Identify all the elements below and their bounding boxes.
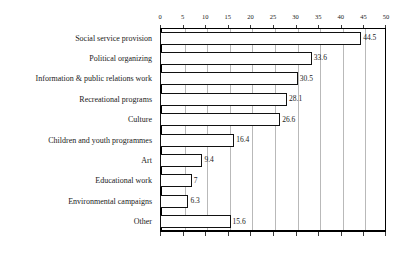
x-tick-mark-bottom xyxy=(205,232,206,236)
bars-layer: 44.533.630.528.126.616.49.476.315.6 xyxy=(160,28,386,232)
bar-row: 6.3 xyxy=(160,191,386,211)
x-tick-label: 40 xyxy=(338,12,345,21)
x-tick-mark-bottom xyxy=(385,232,386,236)
category-label: Art xyxy=(0,150,156,170)
bar-value-label: 28.1 xyxy=(287,92,302,106)
category-label: Children and youth programmes xyxy=(0,130,156,150)
bar xyxy=(160,134,234,147)
x-tick-label: 20 xyxy=(247,12,254,21)
x-tick-mark-bottom xyxy=(296,232,297,236)
bar-row: 33.6 xyxy=(160,48,386,68)
bar-value-label: 9.4 xyxy=(202,153,213,167)
bar-row: 15.6 xyxy=(160,212,386,232)
bar-value-label: 6.3 xyxy=(188,194,199,208)
bar xyxy=(160,72,298,85)
x-tick-mark-bottom xyxy=(250,232,251,236)
category-label: Environmental campaigns xyxy=(0,191,156,211)
bar-value-label: 16.4 xyxy=(234,133,249,147)
category-label: Other xyxy=(0,212,156,232)
bar-value-label: 30.5 xyxy=(298,72,313,86)
x-tick-label: 25 xyxy=(270,12,277,21)
bar-value-label: 7 xyxy=(192,174,198,188)
bar-value-label: 26.6 xyxy=(280,113,295,127)
bar xyxy=(160,52,312,65)
bar xyxy=(160,32,361,45)
bar-chart: 05101520253035404550 44.533.630.528.126.… xyxy=(0,0,402,254)
bar-value-label: 15.6 xyxy=(231,215,246,229)
category-label: Recreational programs xyxy=(0,89,156,109)
category-label: Information & public relations work xyxy=(0,69,156,89)
x-tick-label: 0 xyxy=(158,12,161,21)
bar-row: 26.6 xyxy=(160,110,386,130)
bar xyxy=(160,174,192,187)
x-tick-mark-bottom xyxy=(160,232,161,236)
bar-row: 30.5 xyxy=(160,69,386,89)
x-tick-mark-bottom xyxy=(341,232,342,236)
x-tick-label: 45 xyxy=(360,12,367,21)
x-tick-mark-bottom xyxy=(228,232,229,236)
x-tick-mark-bottom xyxy=(318,232,319,236)
x-tick-label: 5 xyxy=(181,12,184,21)
bar-value-label: 33.6 xyxy=(312,51,327,65)
bar xyxy=(160,93,287,106)
x-tick-label: 15 xyxy=(225,12,232,21)
category-label: Educational work xyxy=(0,171,156,191)
bar-row: 28.1 xyxy=(160,89,386,109)
bar xyxy=(160,195,188,208)
x-tick-label: 50 xyxy=(383,12,390,21)
bar-row: 9.4 xyxy=(160,150,386,170)
bar-row: 7 xyxy=(160,171,386,191)
bar xyxy=(160,113,280,126)
x-axis-bottom-ticks xyxy=(160,232,386,237)
x-tick-mark-bottom xyxy=(183,232,184,236)
x-axis-top: 05101520253035404550 xyxy=(160,12,386,28)
x-tick-label: 35 xyxy=(315,12,322,21)
x-tick-mark-bottom xyxy=(273,232,274,236)
x-tick-mark-bottom xyxy=(363,232,364,236)
bar-row: 16.4 xyxy=(160,130,386,150)
category-axis-labels: Social service provisionPolitical organi… xyxy=(0,28,156,232)
bar-value-label: 44.5 xyxy=(361,31,376,45)
category-label: Political organizing xyxy=(0,48,156,68)
x-tick-label: 10 xyxy=(202,12,209,21)
bar xyxy=(160,215,231,228)
category-label: Social service provision xyxy=(0,28,156,48)
category-label: Culture xyxy=(0,110,156,130)
x-tick-label: 30 xyxy=(292,12,299,21)
bar xyxy=(160,154,202,167)
bar-row: 44.5 xyxy=(160,28,386,48)
